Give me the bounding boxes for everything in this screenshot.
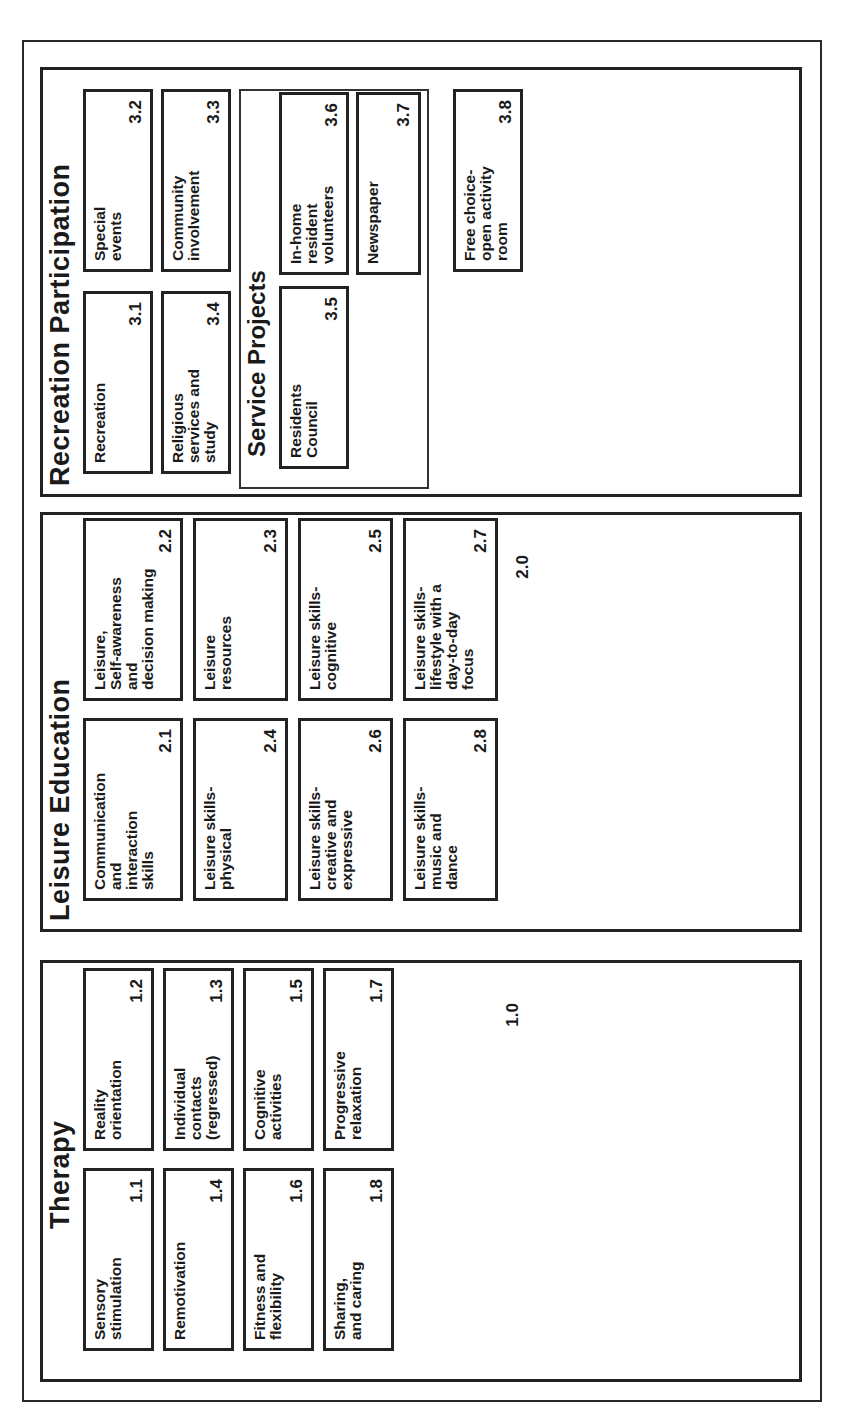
activity-box: Recreation 3.1 xyxy=(83,291,153,474)
activity-box: Leisure skills- creative and expressive … xyxy=(298,718,393,901)
section-number: 1.0 xyxy=(503,1003,523,1027)
activity-box: Leisure skills- cognitive 2.5 xyxy=(298,518,393,701)
activity-box: Leisure skills- lifestyle with a day-to-… xyxy=(403,518,498,701)
activity-box: Leisure skills- physical 2.4 xyxy=(193,718,288,901)
activity-box: Community involvement 3.3 xyxy=(161,89,231,272)
activity-box: In-home resident volunteers 3.6 xyxy=(279,92,349,275)
section-title: Recreation Participation xyxy=(45,163,76,486)
activity-box: Fitness and flexibility 1.6 xyxy=(243,1168,314,1351)
section-title: Leisure Education xyxy=(45,678,76,921)
activity-box: Leisure resources 2.3 xyxy=(193,518,288,701)
section-recreation-participation: Recreation Participation Recreation 3.1 … xyxy=(40,67,802,497)
activity-box: Free choice- open activity room 3.8 xyxy=(453,89,523,272)
section-number: 2.0 xyxy=(513,555,533,579)
activity-box: Special events 3.2 xyxy=(83,89,153,272)
activity-box: Residents Council 3.5 xyxy=(279,286,349,469)
subsection-service-projects: Service Projects Residents Council 3.5 I… xyxy=(239,89,429,489)
program-diagram: Therapy Sensory stimulation 1.1 Reality … xyxy=(22,40,822,1402)
activity-box: Religious services and study 3.4 xyxy=(161,291,231,474)
section-title: Therapy xyxy=(45,1120,76,1229)
activity-box: Individual contacts (regressed) 1.3 xyxy=(163,968,234,1151)
activity-box: Newspaper 3.7 xyxy=(356,92,421,275)
activity-box: Communication and interaction skills 2.1 xyxy=(83,718,183,901)
activity-box: Cognitive activities 1.5 xyxy=(243,968,314,1151)
activity-box: Progressive relaxation 1.7 xyxy=(323,968,394,1151)
activity-box: Sensory stimulation 1.1 xyxy=(83,1168,154,1351)
activity-box: Sharing, and caring 1.8 xyxy=(323,1168,394,1351)
activity-box: Leisure skills- music and dance 2.8 xyxy=(403,718,498,901)
section-leisure-education: Leisure Education Communication and inte… xyxy=(40,512,802,932)
subsection-title: Service Projects xyxy=(243,270,271,457)
activity-box: Leisure, Self-awareness and decision mak… xyxy=(83,518,183,701)
activity-box: Remotivation 1.4 xyxy=(163,1168,234,1351)
section-therapy: Therapy Sensory stimulation 1.1 Reality … xyxy=(40,960,802,1382)
activity-box: Reality orientation 1.2 xyxy=(83,968,154,1151)
